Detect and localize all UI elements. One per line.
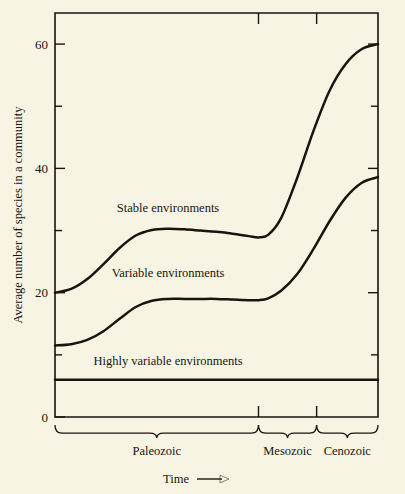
- era-label: Paleozoic: [132, 444, 181, 458]
- era-bracket: [258, 425, 316, 438]
- y-tick-label: 60: [35, 37, 48, 52]
- series-label: Highly variable environments: [93, 354, 242, 368]
- top-axis-era-ticks: [258, 13, 316, 417]
- era-brackets: [55, 425, 378, 438]
- era-label: Mesozoic: [263, 444, 312, 458]
- series-label: Stable environments: [117, 201, 220, 215]
- series-label: Variable environments: [112, 266, 225, 280]
- y-tick-label: 20: [35, 285, 48, 300]
- y-axis-title: Average number of species in a community: [11, 106, 25, 324]
- y-tick-label: 40: [35, 161, 48, 176]
- y-tick-label: 0: [42, 410, 49, 425]
- era-label: Cenozoic: [324, 444, 372, 458]
- series-labels: Stable environmentsVariable environments…: [93, 201, 242, 369]
- y-axis-tick-labels: 0204060: [35, 37, 48, 425]
- x-axis-title: Time: [163, 472, 189, 486]
- era-bracket: [55, 425, 258, 438]
- series-line: [55, 44, 378, 293]
- era-labels: PaleozoicMesozoicCenozoic: [132, 444, 371, 458]
- era-bracket: [317, 425, 378, 438]
- figure-container: 0204060 Stable environmentsVariable envi…: [0, 0, 405, 494]
- species-diversity-chart: 0204060 Stable environmentsVariable envi…: [0, 0, 405, 494]
